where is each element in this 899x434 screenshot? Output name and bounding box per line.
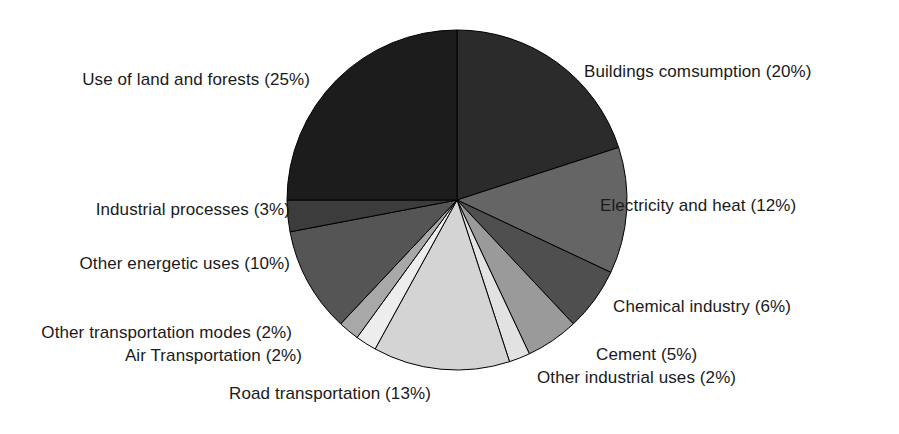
pie-label-other-energetic-uses: Other energetic uses (10%): [10, 254, 290, 274]
pie-label-other-transportation-modes: Other transportation modes (2%): [0, 323, 292, 343]
pie-label-air-transportation: Air Transportation (2%): [40, 346, 302, 366]
pie-slice-group: [287, 30, 627, 370]
pie-chart-figure: Use of land and forests (25%) Buildings …: [0, 0, 899, 434]
pie-label-use-of-land-and-forests: Use of land and forests (25%): [30, 70, 310, 90]
pie-label-industrial-processes: Industrial processes (3%): [20, 200, 290, 220]
pie-label-buildings-comsumption: Buildings comsumption (20%): [584, 62, 894, 82]
pie-label-road-transportation: Road transportation (13%): [180, 384, 480, 404]
pie-label-electricity-and-heat: Electricity and heat (12%): [600, 196, 890, 216]
pie-slice-use-of-land-and-forests: [287, 30, 457, 200]
pie-label-chemical-industry: Chemical industry (6%): [613, 297, 893, 317]
pie-label-other-industrial-uses: Other industrial uses (2%): [537, 368, 837, 388]
pie-label-cement: Cement (5%): [596, 345, 836, 365]
